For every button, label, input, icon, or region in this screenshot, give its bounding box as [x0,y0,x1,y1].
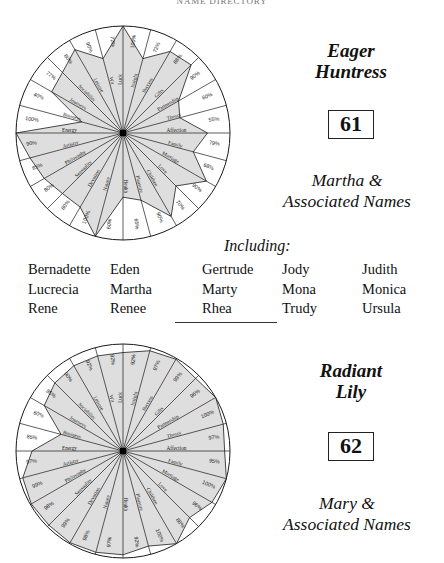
svg-text:60%: 60% [33,409,45,419]
entry-62-epithet: Radiant Lily [258,360,444,403]
entry-61-number: 61 [328,110,374,139]
entry-61-epithet: Eager Huntress [258,40,444,83]
svg-text:77%: 77% [45,70,57,81]
name-cell: Martha [110,280,202,300]
name-cell: Ursula [362,299,406,319]
entry-62-heading-line1: Mary & [319,493,375,513]
svg-text:Health: Health [123,498,129,512]
name-cell: Jody [282,260,362,280]
entry-61-heading-line2: Associated Names [283,191,411,211]
names-row: Lucrecia Martha Marty Mona Monica [28,280,406,300]
name-cell: Trudy [282,299,362,319]
entry-61-heading-line1: Martha & [312,170,383,190]
name-cell: Marty [202,280,282,300]
svg-text:79%: 79% [209,139,221,146]
svg-text:Energy: Energy [62,127,77,133]
svg-text:90%: 90% [191,182,203,193]
svg-text:68%: 68% [203,162,215,172]
svg-text:72%: 72% [152,41,162,53]
section-divider [175,322,277,323]
entry-61-heading: Martha & Associated Names [250,170,444,211]
name-cell: Rhea [202,299,282,319]
entry-62-number-wrap: 62 [258,432,444,461]
name-cell: Gertrude [202,260,282,280]
svg-text:85%: 85% [26,433,38,440]
name-cell: Lucrecia [28,280,110,300]
svg-text:Health: Health [123,180,129,194]
name-cell: Monica [362,280,406,300]
svg-text:Affection: Affection [167,127,187,133]
svg-text:80%: 80% [60,199,71,211]
name-cell: Judith [362,260,406,280]
name-cell: Rene [28,299,110,319]
svg-text:70%: 70% [175,199,186,211]
names-row: Rene Renee Rhea Trudy Ursula [28,299,406,319]
including-label: Including: [224,237,291,255]
radar-chart-mary: LuckInsightSuccessGiftsPartnershipTheory… [8,336,238,563]
svg-text:90%: 90% [155,211,165,223]
svg-text:60%: 60% [201,91,213,101]
entry-62-heading: Mary & Associated Names [250,493,444,534]
entry-62-number: 62 [328,432,374,461]
svg-text:90%: 90% [85,41,95,53]
name-cell: Mona [282,280,362,300]
svg-text:Energy: Energy [62,445,77,451]
name-cell: Eden [110,260,202,280]
svg-text:90%: 90% [189,70,201,81]
entry-62-heading-line2: Associated Names [283,514,411,534]
svg-text:40%: 40% [33,91,45,101]
svg-text:Affection: Affection [167,445,187,451]
radar-chart-martha: LuckInsightSuccessGiftsPartnershipTheory… [8,18,238,248]
entry-61-epithet-line1: Eager [327,40,375,61]
entry-62-epithet-line1: Radiant [320,360,382,381]
associated-names-list: Bernadette Eden Gertrude Jody Judith Luc… [28,260,406,319]
svg-text:Luck: Luck [117,74,123,85]
names-row: Bernadette Eden Gertrude Jody Judith [28,260,406,280]
svg-text:60%: 60% [105,218,112,230]
entry-61-epithet-line2: Huntress [315,61,387,82]
svg-text:72%: 72% [109,36,116,48]
svg-text:55%: 55% [208,115,220,122]
svg-text:100%: 100% [25,115,40,123]
entry-61-number-wrap: 61 [258,110,444,139]
entry-62-epithet-line2: Lily [336,381,367,402]
svg-text:65%: 65% [133,218,140,230]
svg-text:Luck: Luck [117,392,123,403]
running-head: NAME DIRECTORY [0,0,444,6]
name-cell: Bernadette [28,260,110,280]
name-cell: Renee [110,299,202,319]
